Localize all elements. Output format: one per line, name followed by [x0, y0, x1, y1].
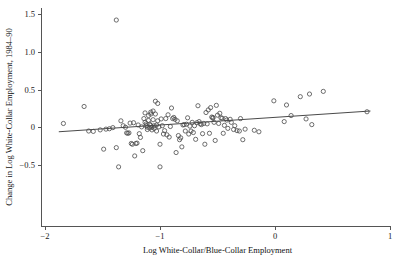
data-point-marker — [284, 103, 288, 107]
data-point-marker — [203, 142, 207, 146]
data-point-marker — [204, 110, 208, 114]
data-point-marker — [310, 123, 314, 127]
data-point-marker — [151, 118, 155, 122]
data-point-marker — [194, 137, 198, 141]
data-point-marker — [307, 92, 311, 96]
data-point-marker — [207, 131, 211, 135]
data-point-marker — [166, 113, 170, 117]
data-point-marker — [174, 150, 178, 154]
data-point-marker — [168, 124, 172, 128]
data-point-marker — [217, 121, 221, 125]
x-tick-label: −2 — [40, 231, 49, 241]
y-tick-label: 1.5 — [24, 9, 35, 19]
data-point-marker — [241, 138, 245, 142]
data-point-marker — [213, 138, 217, 142]
data-point-marker — [214, 103, 218, 107]
x-axis-title: Log White-Collar/Blue-Collar Employment — [143, 245, 293, 255]
data-point-marker — [133, 154, 137, 158]
data-point-marker — [158, 165, 162, 169]
data-point-marker — [154, 129, 158, 133]
data-point-marker — [138, 135, 142, 139]
data-point-marker — [159, 117, 163, 121]
scatter-plot-figure: −0.500.51.01.5−2−101Log White-Collar/Blu… — [0, 0, 403, 266]
data-point-marker — [304, 117, 308, 121]
y-tick-label: 1.0 — [24, 47, 35, 57]
data-point-marker — [272, 99, 276, 103]
data-point-marker — [226, 126, 230, 130]
data-point-marker — [82, 104, 86, 108]
fit-line-segment — [59, 111, 371, 132]
data-points — [61, 18, 369, 169]
data-point-marker — [153, 112, 157, 116]
data-point-marker — [252, 128, 256, 132]
data-point-marker — [196, 104, 200, 108]
data-point-marker — [282, 119, 286, 123]
data-point-marker — [61, 121, 65, 125]
data-point-marker — [117, 165, 121, 169]
data-point-marker — [200, 132, 204, 136]
x-tick-label: −1 — [155, 231, 164, 241]
data-point-marker — [158, 142, 162, 146]
x-tick-label: 0 — [273, 231, 277, 241]
y-tick-label: −0.5 — [20, 160, 35, 170]
y-axis-title: Change in Log White-Collar Employment, 1… — [4, 28, 14, 205]
data-point-marker — [233, 124, 237, 128]
data-point-marker — [222, 123, 226, 127]
data-point-marker — [243, 127, 247, 131]
x-tick-label: 1 — [388, 231, 392, 241]
data-point-marker — [221, 131, 225, 135]
y-tick-label: 0.5 — [24, 85, 35, 95]
data-point-marker — [114, 146, 118, 150]
data-point-marker — [102, 147, 106, 151]
regression-line — [59, 111, 371, 132]
data-point-marker — [119, 119, 123, 123]
data-point-marker — [169, 106, 173, 110]
data-point-marker — [321, 89, 325, 93]
y-tick-label: 0 — [31, 122, 35, 132]
data-point-marker — [180, 145, 184, 149]
data-point-marker — [298, 95, 302, 99]
data-point-marker — [183, 129, 187, 133]
plot-canvas: −0.500.51.01.5−2−101Log White-Collar/Blu… — [0, 0, 403, 266]
data-point-marker — [141, 149, 145, 153]
data-point-marker — [257, 130, 261, 134]
data-point-marker — [289, 113, 293, 117]
data-point-marker — [186, 116, 190, 120]
data-point-marker — [114, 18, 118, 22]
